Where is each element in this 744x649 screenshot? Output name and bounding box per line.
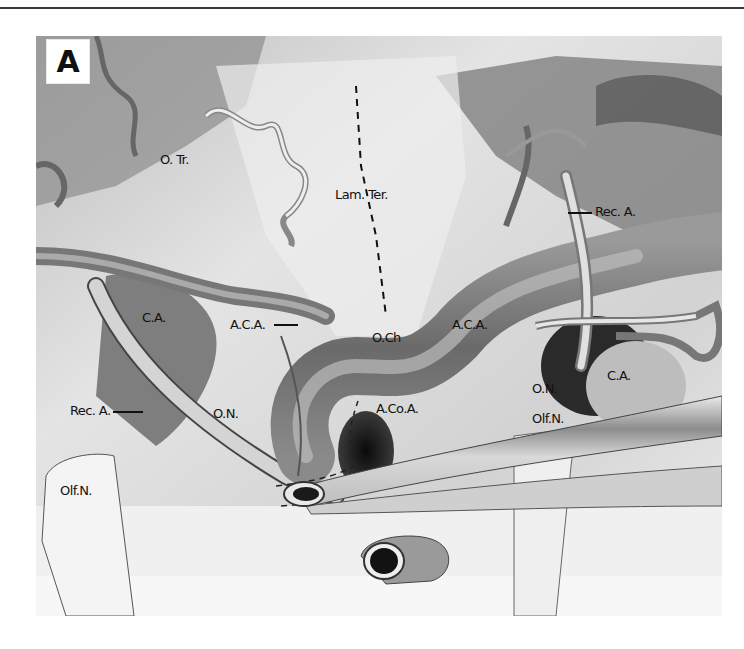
label-anterior-communicating-artery: A.Co.A. (376, 402, 418, 415)
label-optic-nerve-left: O.N. (213, 407, 238, 420)
label-recurrent-artery-left: Rec. A. (70, 404, 110, 417)
leader-line-rec-a-right (568, 212, 592, 214)
label-recurrent-artery-right: Rec. A. (595, 205, 635, 218)
leader-line-aca-left (274, 324, 298, 326)
anatomical-figure: A O. Tr. Lam. Ter. Rec. A. C.A. A.C.A. O… (36, 36, 722, 616)
label-olfactory-nerve-right: Olf.N. (532, 412, 564, 425)
label-optic-chiasm: O.Ch (372, 331, 401, 344)
label-optic-tract: O. Tr. (160, 153, 189, 166)
label-carotid-artery-left: C.A. (142, 311, 166, 324)
label-carotid-artery-right: C.A. (607, 369, 631, 382)
top-rule (0, 7, 744, 9)
label-anterior-cerebral-artery-left: A.C.A. (230, 318, 265, 331)
label-lamina-terminalis: Lam. Ter. (335, 188, 388, 201)
leader-line-rec-a-left (113, 411, 143, 413)
label-optic-nerve-right: O.N. (532, 382, 557, 395)
illustration-artwork (36, 36, 722, 616)
panel-label: A (46, 39, 90, 84)
label-anterior-cerebral-artery-right: A.C.A. (452, 318, 487, 331)
label-olfactory-nerve-left: Olf.N. (60, 484, 92, 497)
